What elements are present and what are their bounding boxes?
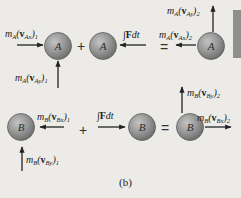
figure-caption: (b)	[119, 176, 132, 188]
ball-b-final-label: B	[187, 121, 194, 133]
ball-a-final-label: A	[207, 40, 215, 52]
label-m-a-vax2: mA(vAx)2	[159, 30, 192, 42]
ball-b-impulse-label: B	[139, 121, 146, 133]
equals-operator-b: =	[161, 121, 169, 135]
ball-b-initial-label: B	[18, 121, 25, 133]
label-m-a-vay1: mA(vAy)1	[15, 73, 48, 85]
plus-operator-b: +	[79, 123, 87, 137]
label-impulse-b: ∫Fdt	[97, 111, 114, 121]
label-m-b-vbx2: mB(vBx)2	[197, 113, 230, 125]
label-m-a-vay2: mA(vAy)2	[167, 6, 200, 18]
plus-operator-a: +	[77, 39, 85, 53]
label-m-b-vbx1: mB(vBx)1	[37, 112, 70, 124]
ball-a-impulse-label: A	[99, 40, 107, 52]
label-m-a-vax1: mA(vAx)1	[5, 29, 38, 41]
label-m-b-vby1: mB(vBy)1	[26, 155, 59, 167]
impulse-momentum-diagram: A A A B B B + = mA(vAx)1 mA(vAy)1 ∫Fdt m…	[0, 0, 241, 198]
equals-operator-a: =	[160, 40, 168, 54]
label-m-b-vby2: mB(vBy)2	[187, 88, 220, 100]
page-edge-tab	[233, 10, 241, 58]
ball-a-initial-label: A	[54, 40, 62, 52]
label-impulse-a: ∫Fdt	[123, 30, 140, 40]
